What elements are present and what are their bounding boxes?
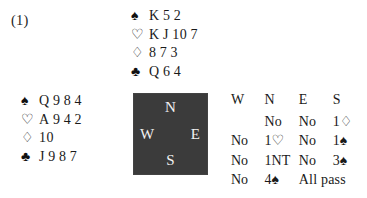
heart-icon: ♡	[21, 113, 36, 127]
figure-number-label: (1)	[11, 12, 29, 29]
compass-west-label: W	[140, 127, 154, 142]
auction-header-west: W	[231, 93, 265, 115]
heart-icon: ♡	[131, 28, 146, 42]
hand-row: ♣ J987	[21, 150, 82, 169]
bid-cell-n: 1NT	[265, 154, 299, 174]
west-heart-cards: A942	[36, 113, 82, 127]
auction-row: No 1NT No 3♠	[231, 154, 367, 174]
west-hand: ♠ Q984 ♡ A942 ♢ 10 ♣ J987	[21, 94, 82, 168]
club-icon: ♣	[21, 150, 36, 164]
bid-cell-w	[231, 115, 265, 135]
hand-row: ♠ K52	[131, 9, 198, 28]
bid-cell-n: 1♡	[265, 134, 299, 154]
bid-cell-e: No	[299, 134, 333, 154]
north-heart-cards: KJ107	[146, 28, 198, 42]
all-pass-cell: All pass	[299, 173, 367, 193]
auction-table: W N E S No No 1♢ No 1♡ No 1♠ No 1NT	[231, 93, 367, 193]
compass-south-label: S	[166, 153, 174, 168]
compass-north-label: N	[165, 100, 176, 115]
bid-cell-w: No	[231, 173, 265, 193]
auction-row: No 4♠ All pass	[231, 173, 367, 193]
hand-row: ♡ KJ107	[131, 28, 198, 47]
hand-row: ♠ Q984	[21, 94, 82, 113]
bid-cell-s: 1♢	[333, 115, 367, 135]
diamond-icon: ♢	[131, 46, 146, 60]
west-club-cards: J987	[36, 150, 77, 164]
bid-cell-w: No	[231, 154, 265, 174]
west-spade-cards: Q984	[36, 94, 82, 108]
bid-cell-s: 1♠	[333, 134, 367, 154]
compass-east-label: E	[191, 127, 200, 142]
hand-row: ♡ A942	[21, 113, 82, 132]
hand-row: ♢ 873	[131, 46, 198, 65]
west-diamond-cards: 10	[36, 131, 54, 145]
north-diamond-cards: 873	[146, 46, 178, 60]
bid-cell-n: No	[265, 115, 299, 135]
hand-row: ♣ Q64	[131, 65, 198, 84]
hand-row: ♢ 10	[21, 131, 82, 150]
bid-cell-s: 3♠	[333, 154, 367, 174]
diamond-icon: ♢	[21, 131, 36, 145]
spade-icon: ♠	[131, 9, 146, 23]
auction-header-east: E	[299, 93, 333, 115]
north-club-cards: Q64	[146, 65, 181, 79]
bid-cell-w: No	[231, 134, 265, 154]
north-hand: ♠ K52 ♡ KJ107 ♢ 873 ♣ Q64	[131, 9, 198, 83]
bridge-deal-figure: (1) ♠ K52 ♡ KJ107 ♢ 873 ♣ Q64 ♠ Q984 ♡ A…	[0, 0, 367, 198]
spade-icon: ♠	[21, 94, 36, 108]
north-spade-cards: K52	[146, 9, 181, 23]
club-icon: ♣	[131, 65, 146, 79]
auction-header-south: S	[333, 93, 367, 115]
auction-header-north: N	[265, 93, 299, 115]
bid-cell-e: No	[299, 115, 333, 135]
auction-row: No 1♡ No 1♠	[231, 134, 367, 154]
compass-box: N W E S	[133, 93, 208, 175]
auction-header-row: W N E S	[231, 93, 367, 115]
auction-row: No No 1♢	[231, 115, 367, 135]
bid-cell-n: 4♠	[265, 173, 299, 193]
bid-cell-e: No	[299, 154, 333, 174]
